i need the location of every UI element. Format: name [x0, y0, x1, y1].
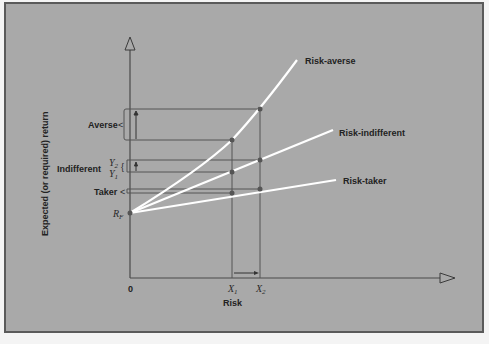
label-taker: Taker: [94, 187, 118, 197]
label-risk-taker: Risk-taker: [343, 176, 387, 186]
label-risk-averse: Risk-averse: [305, 56, 356, 66]
label-origin: 0: [128, 284, 133, 294]
averse-brace: <: [118, 120, 123, 130]
risk-return-diagram: Risk-averse Risk-indifferent Risk-taker …: [0, 0, 489, 344]
label-risk-indifferent: Risk-indifferent: [339, 128, 405, 138]
y-axis-label: Expected (or required) return: [40, 111, 50, 236]
label-averse: Averse: [88, 120, 118, 130]
indifferent-brace: {: [121, 162, 124, 172]
label-indifferent: Indifferent: [57, 164, 101, 174]
x-axis-label: Risk: [223, 298, 243, 308]
taker-brace: <: [120, 187, 125, 197]
